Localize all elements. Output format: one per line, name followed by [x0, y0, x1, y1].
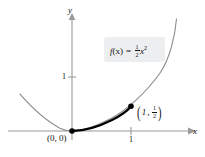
formula-argument: (x) [113, 47, 124, 56]
x-axis-label: x [193, 127, 197, 136]
origin-label-close-paren: ) [64, 133, 67, 143]
point-label-y-fraction: 12 [152, 105, 157, 119]
formula-coefficient-fraction: 1 2 [135, 44, 140, 58]
point-label-y-denominator: 2 [152, 113, 157, 119]
point-label-open-paren: ( [137, 104, 141, 121]
x-axis [8, 127, 196, 135]
origin-point-dot [69, 128, 75, 134]
figure-canvas [0, 0, 205, 157]
formula-equals: = [123, 47, 134, 56]
highlighted-curve-segment [72, 107, 131, 132]
formula-coefficient-denominator: 2 [135, 52, 140, 58]
y-axis [68, 13, 76, 140]
formula-exponent: 2 [144, 45, 147, 51]
formula-label: f(x) = 1 2 x2 [110, 44, 147, 58]
origin-point-label: (0, 0) [47, 134, 67, 143]
point-label-close-paren: ) [158, 104, 162, 121]
point-label-y-numerator: 1 [152, 105, 157, 111]
origin-label-comma: , [55, 133, 57, 143]
formula-coefficient-numerator: 1 [135, 44, 140, 50]
marked-point-label: (1,12) [136, 104, 163, 121]
x-axis-tick-label-1: 1 [129, 136, 133, 144]
point-label-comma: , [147, 108, 151, 117]
marked-point-dot [128, 103, 134, 109]
parabola-figure: f(x) = 1 2 x2 y x 1 1 (0, 0) (1,12) [0, 0, 205, 157]
y-axis-tick-label-1: 1 [62, 73, 66, 81]
y-axis-label: y [68, 6, 72, 15]
